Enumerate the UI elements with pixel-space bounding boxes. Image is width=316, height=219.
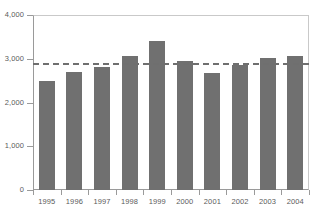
bar-2000 [177, 61, 193, 190]
x-axis-tick [33, 190, 34, 195]
x-axis-tick-label: 1996 [61, 198, 89, 206]
x-axis-tick [226, 190, 227, 195]
bar-2004 [287, 56, 303, 190]
x-axis-tick-label: 1997 [88, 198, 116, 206]
bar-1997 [94, 67, 110, 190]
bar-1996 [66, 72, 82, 190]
bar-2001 [204, 73, 220, 190]
x-axis-tick-label: 2002 [226, 198, 254, 206]
bar-1995 [39, 81, 55, 190]
y-axis-tick [27, 103, 33, 104]
y-axis-tick [27, 59, 33, 60]
x-axis-tick [199, 190, 200, 195]
y-axis-tick [27, 146, 33, 147]
x-axis-tick-label: 1999 [143, 198, 171, 206]
bar-2002 [232, 65, 248, 190]
bar-chart: 01,0002,0003,0004,000 199519961997199819… [0, 0, 316, 219]
x-axis-tick-label: 1995 [33, 198, 61, 206]
x-axis-tick [281, 190, 282, 195]
y-axis-tick-label: 1,000 [0, 142, 24, 150]
x-axis-tick-label: 2001 [199, 198, 227, 206]
y-axis-tick-label: 0 [0, 186, 24, 194]
x-axis-tick-label: 1998 [116, 198, 144, 206]
x-axis-tick [116, 190, 117, 195]
y-axis-tick-label: 2,000 [0, 99, 24, 107]
x-axis-tick [254, 190, 255, 195]
reference-line [33, 63, 309, 65]
x-axis-tick-label: 2004 [281, 198, 309, 206]
y-axis-tick-label: 4,000 [0, 11, 24, 19]
x-axis-tick [171, 190, 172, 195]
y-axis-tick-label: 3,000 [0, 55, 24, 63]
bar-2003 [260, 58, 276, 190]
x-axis-tick-label: 2000 [171, 198, 199, 206]
x-axis-tick [143, 190, 144, 195]
x-axis-tick [61, 190, 62, 195]
x-axis-tick [309, 190, 310, 195]
x-axis-tick [88, 190, 89, 195]
y-axis-tick [27, 15, 33, 16]
x-axis-tick-label: 2003 [254, 198, 282, 206]
bar-1998 [122, 56, 138, 190]
